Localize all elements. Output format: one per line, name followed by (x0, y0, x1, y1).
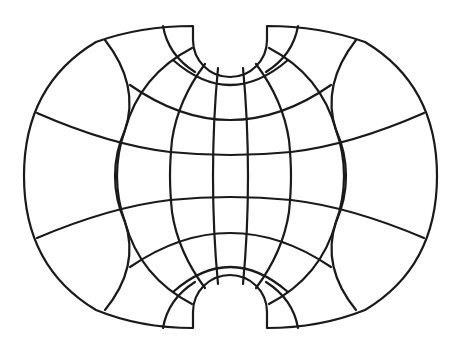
parallel-bottom-2 (130, 233, 331, 267)
parallel-bottom-1 (173, 267, 288, 292)
meridian-left-4 (213, 68, 218, 284)
parallel-bottom-3 (37, 197, 424, 238)
parallel-top-2 (130, 85, 331, 120)
diagram-canvas (0, 0, 461, 349)
parallel-top-1 (173, 60, 288, 85)
meridian-right-3 (256, 64, 291, 288)
meridian-left-3 (170, 64, 205, 288)
graticule-diagram (0, 0, 461, 349)
meridian-right-4 (243, 68, 248, 284)
outer-boundary (24, 26, 437, 328)
